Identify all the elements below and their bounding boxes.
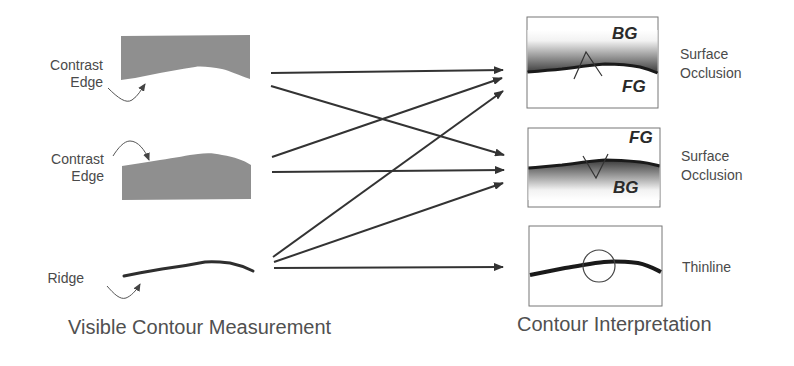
thinline-box bbox=[529, 226, 662, 306]
left-label-contrast-edge-2: Contrast Edge bbox=[14, 151, 104, 185]
left-label-line2: Edge bbox=[14, 168, 104, 185]
left-label-line2: Edge bbox=[13, 74, 103, 91]
right-label-line1: Surface bbox=[680, 45, 741, 64]
right-label-thinline: Thinline bbox=[682, 258, 731, 277]
arrow-ridge-to-occlusion1 bbox=[273, 91, 503, 257]
curved-pointer-arrow-1 bbox=[108, 84, 145, 101]
connection-arrows bbox=[271, 70, 504, 268]
contrast-edge-shape-1 bbox=[121, 35, 250, 80]
region-label-box1-top: BG bbox=[612, 24, 638, 44]
right-label-surface-occlusion-2: Surface Occlusion bbox=[681, 147, 742, 185]
left-label-line1: Contrast bbox=[13, 57, 103, 74]
ridge-line bbox=[124, 262, 253, 276]
right-label-line1: Surface bbox=[681, 147, 742, 166]
region-label-box2-bottom: BG bbox=[613, 178, 639, 198]
contrast-edge-shape-2 bbox=[122, 153, 251, 200]
left-label-line1: Ridge bbox=[0, 270, 84, 287]
arrow-edge2-to-occlusion2 bbox=[272, 170, 504, 172]
curved-pointer-arrow-3 bbox=[107, 284, 140, 298]
right-label-surface-occlusion-1: Surface Occlusion bbox=[680, 45, 741, 83]
arrow-ridge-to-thinline bbox=[274, 267, 503, 268]
arrow-edge1-to-occlusion1 bbox=[271, 70, 503, 73]
contour-diagram bbox=[0, 0, 794, 366]
arrow-ridge-to-occlusion2 bbox=[274, 183, 503, 262]
left-label-line1: Contrast bbox=[14, 151, 104, 168]
region-label-box2-top: FG bbox=[629, 128, 653, 148]
left-label-ridge: Ridge bbox=[0, 270, 84, 287]
right-label-line1: Thinline bbox=[682, 258, 731, 277]
right-label-line2: Occlusion bbox=[680, 64, 741, 83]
caption-visible-contour-measurement: Visible Contour Measurement bbox=[68, 316, 331, 339]
right-label-line2: Occlusion bbox=[681, 166, 742, 185]
caption-contour-interpretation: Contour Interpretation bbox=[517, 313, 712, 336]
left-label-contrast-edge-1: Contrast Edge bbox=[13, 57, 103, 91]
curved-pointer-arrow-2 bbox=[113, 141, 149, 160]
region-label-box1-bottom: FG bbox=[622, 77, 646, 97]
